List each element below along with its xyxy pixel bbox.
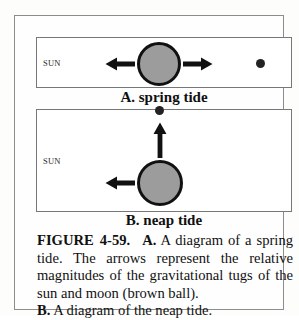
moon-ball-panel-a <box>256 59 265 68</box>
figure-caption-number: 4-59. <box>100 232 130 248</box>
earth-ball-panel-a <box>137 42 181 86</box>
left-arrow-icon-panel-b <box>105 176 135 190</box>
panel-a-caption: A. spring tide <box>36 89 292 106</box>
figure-outer-frame: SUN A. spring tide SUN <box>14 15 284 310</box>
figure-caption: FIGURE4-59.A. A diagram of a spring tide… <box>37 232 293 320</box>
up-arrow-icon-panel-b <box>153 122 167 158</box>
panel-b-caption: B. neap tide <box>36 212 292 229</box>
figure-caption-part-b-text: A diagram of the neap tide. <box>53 302 212 318</box>
figure-caption-part-b-marker: B. <box>37 302 50 318</box>
earth-ball-panel-b <box>137 160 183 206</box>
panel-neap-tide: SUN <box>36 109 292 212</box>
left-arrow-icon-panel-a <box>105 57 135 71</box>
figure-caption-part-a-marker: A. <box>142 232 156 248</box>
sun-label-panel-a: SUN <box>43 58 61 68</box>
panel-spring-tide: SUN <box>36 37 292 88</box>
figure-caption-label: FIGURE <box>37 232 94 248</box>
moon-ball-panel-b <box>155 106 164 115</box>
right-arrow-icon-panel-a <box>183 57 213 71</box>
sun-label-panel-b: SUN <box>43 156 61 166</box>
